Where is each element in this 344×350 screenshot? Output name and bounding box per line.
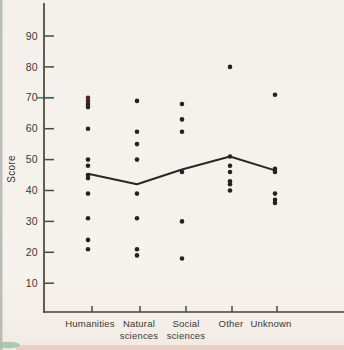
x-category-label: Other <box>219 318 244 329</box>
bottom-pink-scan-streak <box>16 345 344 350</box>
data-point <box>180 256 185 261</box>
data-point <box>86 238 91 243</box>
y-tick-label: 60 <box>26 122 38 134</box>
data-point <box>86 105 91 110</box>
data-point <box>135 191 140 196</box>
x-category-label: Humanities <box>65 318 115 329</box>
y-tick-label: 40 <box>26 184 38 196</box>
scatter-plot-figure: 908070605040302010HumanitiesNaturalscien… <box>0 0 344 350</box>
dots-social-sciences <box>180 102 185 261</box>
data-point <box>180 102 185 107</box>
data-point <box>86 191 91 196</box>
x-category-label: sciences <box>167 330 206 341</box>
y-axis-title: Score <box>6 155 17 183</box>
data-point <box>135 157 140 162</box>
dots-other <box>228 65 233 193</box>
data-point <box>86 164 91 169</box>
x-category-label: Social <box>172 318 199 329</box>
y-tick-label: 20 <box>26 246 38 258</box>
scan-artifacts <box>0 0 344 350</box>
data-point <box>228 154 233 159</box>
dots-humanities <box>86 96 91 252</box>
data-point <box>86 247 91 252</box>
data-point <box>135 247 140 252</box>
data-point <box>135 142 140 147</box>
data-point <box>228 188 233 193</box>
data-point <box>86 216 91 221</box>
chart-svg: 908070605040302010HumanitiesNaturalscien… <box>0 0 344 350</box>
data-point <box>180 170 185 175</box>
data-point <box>273 92 278 97</box>
dots-unknown <box>273 92 278 205</box>
x-category-label: Unknown <box>250 318 291 329</box>
data-point <box>180 219 185 224</box>
data-point <box>135 99 140 104</box>
y-tick-label: 70 <box>26 91 38 103</box>
data-point <box>273 201 278 206</box>
data-point <box>228 182 233 187</box>
data-point <box>273 191 278 196</box>
x-category-label: Natural <box>123 318 155 329</box>
y-tick-label: 90 <box>26 30 38 42</box>
dots-natural-sciences <box>135 99 140 258</box>
data-point <box>135 253 140 258</box>
data-point <box>228 164 233 169</box>
data-point <box>180 117 185 122</box>
left-edge-scan-band <box>0 0 3 350</box>
y-tick-label: 30 <box>26 215 38 227</box>
data-point <box>228 65 233 70</box>
y-tick-label: 10 <box>26 277 38 289</box>
data-point <box>273 170 278 175</box>
y-tick-label: 80 <box>26 61 38 73</box>
data-point <box>135 216 140 221</box>
data-point <box>135 130 140 135</box>
data-point <box>86 126 91 131</box>
data-point <box>86 176 91 181</box>
y-tick-label: 50 <box>26 153 38 165</box>
data-point <box>86 157 91 162</box>
data-point <box>228 170 233 175</box>
data-point <box>180 130 185 135</box>
x-category-label: sciences <box>120 330 159 341</box>
